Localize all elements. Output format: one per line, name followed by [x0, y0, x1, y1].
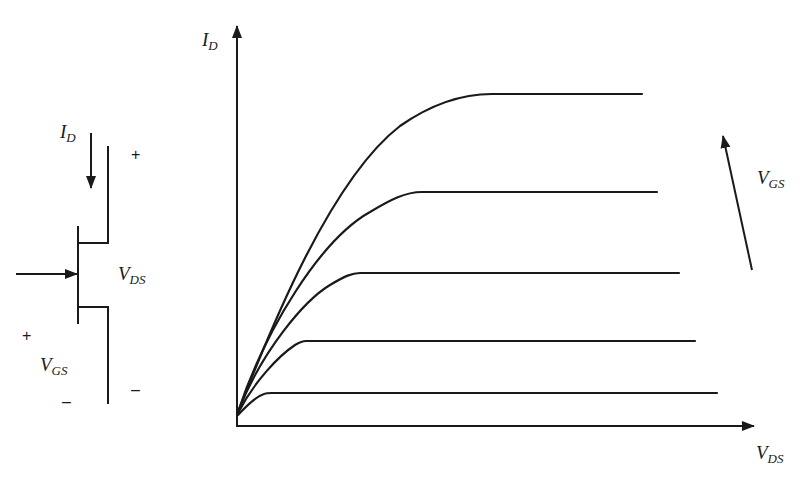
vgs-circuit-label: VGS [40, 355, 68, 377]
vgs-minus-sign: – [62, 394, 71, 410]
vds-plus-sign: + [131, 147, 140, 163]
axes [236, 26, 754, 427]
curve-vgs-4 [238, 192, 657, 412]
vgs-circuit-label-main: V [40, 354, 52, 375]
vgs-increase-arrow [723, 136, 752, 270]
vgs-arrow-label-sub: GS [769, 176, 785, 191]
curve-vgs-5 [238, 94, 642, 412]
source-lead [78, 307, 108, 404]
curve-vgs-3 [238, 273, 679, 412]
vds-circuit-label: VDS [118, 264, 146, 286]
diagram-canvas [0, 0, 806, 483]
curve-vgs-2 [238, 341, 695, 413]
characteristic-curves [238, 94, 717, 415]
curve-vgs-1 [238, 393, 717, 415]
vgs-arrow-label: VGS [757, 168, 785, 190]
vgs-plus-sign: + [22, 328, 31, 344]
y-axis-label: ID [202, 30, 218, 52]
x-axis-label: VDS [756, 443, 784, 465]
vgs-circuit-label-sub: GS [52, 363, 68, 378]
vds-circuit-label-main: V [118, 263, 130, 284]
x-axis-label-main: V [756, 442, 768, 463]
x-axis-label-sub: DS [768, 451, 784, 466]
drain-current-label: ID [60, 122, 76, 144]
vds-minus-sign: – [131, 382, 140, 398]
vgs-arrow-label-main: V [757, 167, 769, 188]
vds-circuit-label-sub: DS [130, 272, 146, 287]
drain-lead [78, 146, 108, 243]
y-axis-label-sub: D [208, 38, 217, 53]
drain-current-label-sub: D [66, 130, 75, 145]
